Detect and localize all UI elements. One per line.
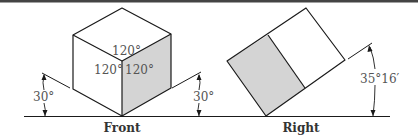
front-caption: Front — [104, 121, 141, 135]
arrow-up-icon — [197, 74, 202, 80]
front-top-angle-label: 120° — [112, 44, 141, 58]
right-view: 35°16′ Right — [209, 8, 400, 135]
front-right-angle-label: 120° — [125, 63, 154, 77]
right-caption: Right — [282, 121, 320, 135]
right-shaded-face — [227, 35, 305, 116]
front-left-incline-line — [42, 73, 70, 88]
top-rule — [0, 0, 418, 3]
front-right-incline-label: 30° — [193, 90, 214, 104]
arrow-down-icon — [371, 110, 376, 116]
front-left-angle-label: 120° — [94, 63, 123, 77]
right-incline-label: 35°16′ — [360, 72, 400, 86]
front-left-incline-label: 30° — [33, 90, 54, 104]
arrow-down-icon — [43, 110, 48, 116]
isometric-projection-figure: 120° 120° 120° 30° 30° Front 35°16′ Righ… — [0, 0, 418, 137]
arrow-down-icon — [197, 110, 202, 116]
front-view: 120° 120° 120° 30° 30° Front — [24, 8, 214, 135]
